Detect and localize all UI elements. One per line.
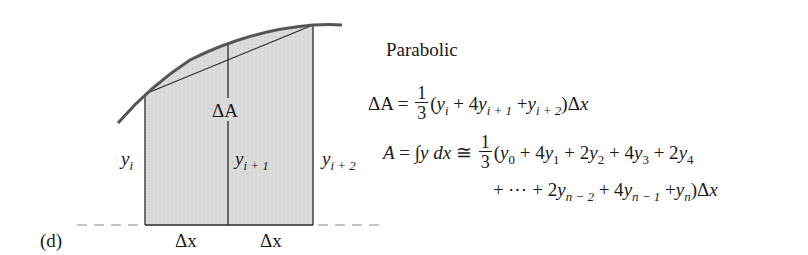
eq2-term-2-base: y	[589, 142, 597, 163]
dx-left-text: Δx	[175, 230, 197, 251]
eq2-term-2-sub: 2	[598, 152, 605, 167]
eq2-term-2-coef: + 2	[560, 142, 590, 163]
eq1-plus2: +	[512, 93, 527, 114]
eq3-t2-sub: n − 1	[632, 189, 660, 204]
equation-total-area-continued: + ⋯ + 2yn − 2 + 4yn − 1 +yn)Δx	[493, 180, 718, 199]
dx-right-label: Δx	[260, 231, 282, 250]
eq1-fraction: 1 3	[415, 84, 428, 123]
eq2-term-1-sub: 1	[553, 152, 560, 167]
eq1-equals: =	[398, 93, 409, 114]
eq3-plus1: + 4	[594, 179, 624, 200]
eq2-term-3-sub: 3	[642, 152, 649, 167]
eq1-plus1: + 4	[449, 93, 479, 114]
eq1-t3-base: y	[528, 93, 536, 114]
eq2-term-1-base: y	[545, 142, 553, 163]
method-title: Parabolic	[386, 40, 458, 59]
dx-right-text: Δx	[260, 230, 282, 251]
eq3-t2-base: y	[624, 179, 632, 200]
eq1-lhs: ΔA	[368, 93, 393, 114]
eq2-term-4-coef: + 2	[649, 142, 679, 163]
eq2-lhs: A	[383, 142, 395, 163]
dx-left-label: Δx	[175, 231, 197, 250]
eq2-term-4-base: y	[679, 142, 687, 163]
eq2-term-4-sub: 4	[687, 152, 694, 167]
eq3-dx-var: x	[709, 179, 717, 200]
eq1-t2-sub: i + 1	[487, 103, 512, 118]
eq1-close: )Δ	[561, 93, 580, 114]
y-i-sub: i	[129, 158, 133, 173]
eq3-t1-base: y	[557, 179, 565, 200]
eq2-term-1-coef: + 4	[515, 142, 545, 163]
y-i-plus-1-label: yi + 1	[235, 149, 269, 168]
eq2-approx: ≅	[456, 142, 472, 163]
panel-label: (d)	[40, 231, 62, 250]
eq1-t3-sub: i + 2	[536, 103, 561, 118]
equation-total-area: A = ∫y dx ≅ 1 3 (y0 + 4y1 + 2y2 + 4y3 + …	[383, 135, 694, 174]
panel-label-text: (d)	[40, 230, 62, 251]
y-i-plus-2-label: yi + 2	[322, 149, 356, 168]
eq2-frac-num: 1	[479, 133, 492, 152]
eq2-frac-den: 3	[479, 152, 492, 172]
eq3-t1-sub: n − 2	[566, 189, 594, 204]
eq3-plus2: +	[660, 179, 675, 200]
eq1-frac-num: 1	[415, 84, 428, 103]
delta-area-label: ΔA	[212, 101, 238, 120]
eq2-fraction: 1 3	[479, 133, 492, 172]
eq2-term-3-coef: + 4	[604, 142, 634, 163]
eq3-lead: + ⋯ + 2	[493, 179, 557, 200]
eq2-equals: =	[399, 142, 410, 163]
delta-area-text: ΔA	[212, 100, 238, 121]
y-i-label: yi	[121, 149, 133, 168]
equation-delta-area: ΔA = 1 3 (yi + 4yi + 1 +yi + 2)Δx	[368, 86, 588, 125]
eq1-t1-sub: i	[445, 103, 449, 118]
eq1-t1-base: y	[436, 93, 444, 114]
eq3-t3-base: y	[676, 179, 684, 200]
method-title-text: Parabolic	[386, 39, 458, 60]
eq3-close: )Δ	[691, 179, 710, 200]
eq1-t2-base: y	[478, 93, 486, 114]
eq1-frac-den: 3	[415, 103, 428, 123]
y-i-plus-2-sub: i + 2	[330, 158, 355, 173]
eq2-integrand: y dx	[420, 142, 451, 163]
eq2-term-0-sub: 0	[508, 152, 515, 167]
y-i-plus-1-sub: i + 1	[243, 158, 268, 173]
eq1-dx-var: x	[580, 93, 588, 114]
shaded-area	[145, 25, 313, 225]
eq3-t3-sub: n	[684, 189, 691, 204]
